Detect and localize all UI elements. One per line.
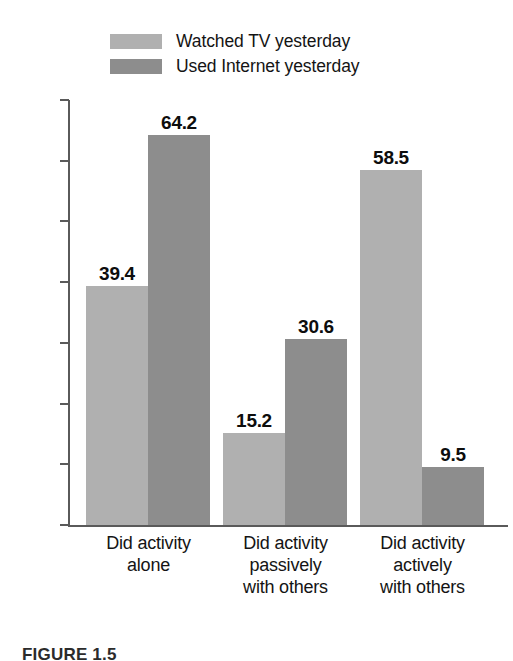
bar [360, 170, 422, 525]
bar-value-label: 9.5 [440, 445, 466, 464]
legend-item-used-internet: Used Internet yesterday [110, 55, 440, 77]
y-tick-mark [60, 524, 69, 526]
bar-wrapper: 39.4 [86, 100, 148, 525]
bar [148, 135, 210, 525]
bar-group: 58.59.5 [360, 100, 485, 525]
y-tick-mark [60, 463, 69, 465]
y-tick-mark [60, 160, 69, 162]
bar-wrapper: 58.5 [360, 100, 422, 525]
bar [86, 286, 148, 525]
category-label-line: with others [346, 576, 499, 598]
category-label-line: passively [209, 554, 362, 576]
category-label-line: actively [346, 554, 499, 576]
bar-wrapper: 9.5 [422, 100, 484, 525]
category-label-line: alone [72, 554, 225, 576]
y-tick-mark [60, 281, 69, 283]
category-label: Did activityactivelywith others [346, 532, 499, 598]
bar [223, 433, 285, 525]
legend-item-watched-tv: Watched TV yesterday [110, 30, 440, 52]
legend-swatch-used-internet [110, 59, 162, 74]
category-label: Did activitypassivelywith others [209, 532, 362, 598]
category-label-line: with others [209, 576, 362, 598]
bar-value-label: 15.2 [236, 411, 272, 430]
y-tick-mark [60, 403, 69, 405]
chart-legend: Watched TV yesterday Used Internet yeste… [110, 30, 440, 80]
legend-label-watched-tv: Watched TV yesterday [176, 31, 350, 52]
bar-value-label: 30.6 [298, 317, 334, 336]
category-label-line: Did activity [72, 532, 225, 554]
category-label: Did activityalone [72, 532, 225, 576]
category-label-line: Did activity [346, 532, 499, 554]
bar-value-label: 58.5 [373, 148, 409, 167]
bar [285, 339, 347, 525]
legend-label-used-internet: Used Internet yesterday [176, 56, 360, 77]
bar-wrapper: 30.6 [285, 100, 347, 525]
x-axis-line [68, 525, 508, 527]
bar-value-label: 64.2 [161, 113, 197, 132]
y-tick-mark [60, 342, 69, 344]
y-tick-mark [60, 220, 69, 222]
bar-value-label: 39.4 [99, 264, 135, 283]
y-tick-mark [60, 99, 69, 101]
bar-wrapper: 15.2 [223, 100, 285, 525]
chart-plot-area: 0%10%20%30%40%50%60%70% 39.464.215.230.6… [68, 100, 498, 527]
figure-caption: FIGURE 1.5 [22, 645, 117, 661]
legend-swatch-watched-tv [110, 34, 162, 49]
bar-group: 15.230.6 [223, 100, 348, 525]
category-label-line: Did activity [209, 532, 362, 554]
bar-wrapper: 64.2 [148, 100, 210, 525]
bar-group: 39.464.2 [86, 100, 211, 525]
bar [422, 467, 484, 525]
